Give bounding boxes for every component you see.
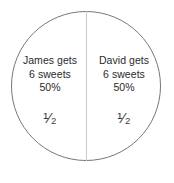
right-half-percent-line: 50% (88, 81, 160, 95)
right-half-fraction: ¹⁄₂ (88, 110, 160, 127)
half-divider-line (86, 11, 87, 161)
left-fraction-glyph: ¹⁄₂ (43, 110, 56, 125)
right-half-amount-line: 6 sweets (88, 68, 160, 82)
right-half-person-line: David gets (88, 54, 160, 68)
left-half-amount-line: 6 sweets (14, 68, 86, 82)
left-half-person-line: James gets (14, 54, 86, 68)
right-half-label-group: David gets 6 sweets 50% (88, 54, 160, 95)
right-fraction-glyph: ¹⁄₂ (117, 110, 130, 125)
pie-diagram: James gets 6 sweets 50% David gets 6 swe… (0, 0, 174, 183)
left-half-label-group: James gets 6 sweets 50% (14, 54, 86, 95)
left-half-fraction: ¹⁄₂ (14, 110, 86, 127)
left-half-percent-line: 50% (14, 81, 86, 95)
